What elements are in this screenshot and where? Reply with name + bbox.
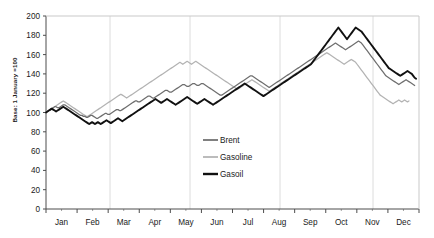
y-tick-label: 20	[31, 186, 41, 195]
series-line-gasoline	[46, 53, 409, 117]
x-axis-month-label: May	[178, 218, 194, 227]
x-axis-month-label: Apr	[148, 218, 161, 227]
data-series-layer	[46, 28, 416, 125]
y-tick-label: 160	[26, 51, 40, 60]
y-tick-label: 40	[31, 166, 41, 175]
y-axis-ticks: 020406080100120140160180200	[26, 12, 46, 214]
legend-label-gasoline: Gasoline	[220, 153, 253, 162]
x-axis-month-label: Jan	[55, 218, 69, 227]
y-tick-label: 140	[26, 70, 40, 79]
x-axis-month-label: Mar	[117, 218, 131, 227]
x-axis-month-labels: JanFebMarAprMayJunJulAugSepOctNovDec	[55, 218, 411, 227]
x-axis-month-label: Jun	[210, 218, 224, 227]
x-axis-month-label: Nov	[365, 218, 380, 227]
y-tick-label: 180	[26, 31, 40, 40]
x-axis-month-label: Jul	[243, 218, 254, 227]
x-axis-ticks	[46, 209, 419, 213]
y-tick-label: 100	[26, 109, 40, 118]
y-tick-label: 60	[31, 147, 41, 156]
x-axis-month-label: Aug	[272, 218, 287, 227]
legend-label-brent: Brent	[220, 136, 240, 145]
y-tick-label: 0	[35, 205, 40, 214]
x-axis-month-label: Oct	[335, 218, 348, 227]
legend-label-gasoil: Gasoil	[220, 170, 243, 179]
price-index-line-chart: Base: 1 January =100 0204060801001201401…	[0, 0, 434, 238]
y-tick-label: 80	[31, 128, 41, 137]
y-tick-label: 200	[26, 12, 40, 21]
y-tick-label: 120	[26, 89, 40, 98]
x-axis-month-label: Feb	[86, 218, 101, 227]
chart-legend: BrentGasolineGasoil	[203, 136, 253, 179]
x-axis-month-label: Sep	[303, 218, 318, 227]
chart-canvas: 020406080100120140160180200 JanFebMarApr…	[0, 0, 434, 238]
x-axis-month-label: Dec	[396, 218, 411, 227]
